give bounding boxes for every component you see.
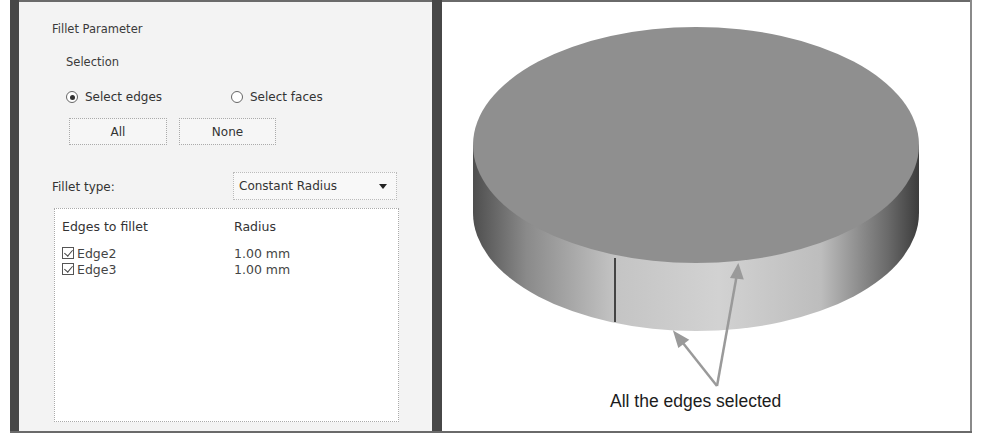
- checkbox-checked-icon[interactable]: [62, 247, 74, 259]
- none-button[interactable]: None: [179, 118, 276, 145]
- fillet-type-label: Fillet type:: [52, 180, 115, 194]
- chevron-down-icon[interactable]: [379, 184, 387, 189]
- radio-select-edges[interactable]: Select edges: [66, 90, 162, 104]
- edges-to-fillet-list[interactable]: Edges to fillet Radius Edge2 1.00 mm Edg…: [54, 208, 399, 422]
- radio-label: Select faces: [250, 90, 323, 104]
- selection-label: Selection: [66, 55, 119, 69]
- panel-divider: [432, 0, 442, 433]
- cylinder-model[interactable]: [442, 2, 970, 431]
- annotation-label: All the edges selected: [610, 391, 781, 412]
- fillet-type-value: Constant Radius: [239, 179, 337, 193]
- 3d-viewport[interactable]: All the edges selected: [442, 2, 970, 431]
- frame-right-border: [970, 0, 972, 433]
- radio-select-faces[interactable]: Select faces: [231, 90, 323, 104]
- column-header-radius: Radius: [234, 219, 276, 234]
- radio-unselected-icon[interactable]: [231, 91, 243, 103]
- list-item[interactable]: Edge2 1.00 mm: [62, 245, 392, 261]
- edge-radius: 1.00 mm: [234, 262, 290, 277]
- column-header-edges: Edges to fillet: [62, 219, 148, 234]
- radio-selected-icon[interactable]: [66, 91, 78, 103]
- all-button[interactable]: All: [69, 118, 167, 145]
- fillet-parameter-panel: Fillet Parameter Selection Select edges …: [19, 2, 432, 431]
- checkbox-checked-icon[interactable]: [62, 263, 74, 275]
- panel-title: Fillet Parameter: [52, 22, 142, 36]
- cylinder-top-face[interactable]: [473, 27, 919, 263]
- edge-name: Edge2: [77, 246, 116, 261]
- fillet-type-dropdown[interactable]: Constant Radius: [233, 172, 397, 200]
- list-item[interactable]: Edge3 1.00 mm: [62, 261, 392, 277]
- radio-label: Select edges: [85, 90, 162, 104]
- frame-bottom-border: [10, 431, 972, 433]
- frame-left-border: [10, 0, 19, 433]
- edge-name: Edge3: [77, 262, 116, 277]
- edge-radius: 1.00 mm: [234, 246, 290, 261]
